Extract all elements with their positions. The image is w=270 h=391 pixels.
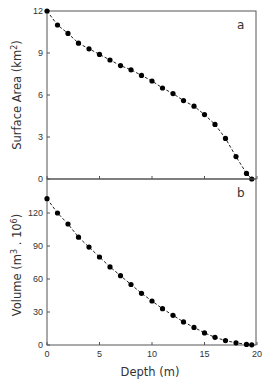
volume-panel: 0306090120 05101520 b Volume (m3 . 106) xyxy=(10,179,263,359)
x-axis-title: Depth (m) xyxy=(121,365,180,379)
data-point xyxy=(139,73,144,78)
y-tick-label: 30 xyxy=(33,307,43,317)
data-point xyxy=(244,171,249,176)
panel-a-label: a xyxy=(237,18,244,32)
data-point xyxy=(97,254,102,259)
data-point xyxy=(65,31,70,36)
data-point xyxy=(202,112,207,117)
y-tick-label: 60 xyxy=(33,274,43,284)
data-point xyxy=(181,319,186,324)
data-point xyxy=(149,298,154,303)
x-tick-label: 15 xyxy=(199,349,209,359)
data-point xyxy=(223,338,228,343)
data-point xyxy=(170,91,175,96)
data-point xyxy=(128,67,133,72)
panel-b-frame xyxy=(47,179,256,345)
y-tick-label: 0 xyxy=(38,340,43,350)
data-point xyxy=(202,330,207,335)
y-tick-label: 9 xyxy=(38,48,43,58)
data-point xyxy=(212,122,217,127)
data-point xyxy=(160,85,165,90)
x-tick-label: 10 xyxy=(147,349,157,359)
data-point xyxy=(44,8,49,13)
data-point xyxy=(191,104,196,109)
data-point xyxy=(118,63,123,68)
surface-area-panel: 036912 a Surface Area (km2) xyxy=(10,6,258,184)
data-point xyxy=(181,98,186,103)
data-point xyxy=(107,264,112,269)
data-point xyxy=(212,335,217,340)
data-point xyxy=(76,41,81,46)
x-tick-label: 5 xyxy=(97,349,102,359)
panel-a-line xyxy=(47,11,252,179)
data-point xyxy=(128,282,133,287)
y-tick-label: 90 xyxy=(33,241,43,251)
y-tick-label: 6 xyxy=(38,90,43,100)
y-tick-label: 3 xyxy=(38,132,43,142)
depth-charts: 036912 a Surface Area (km2) 0306090120 0… xyxy=(0,0,270,391)
y-tick-label: 12 xyxy=(33,6,43,16)
panel-a-frame xyxy=(47,11,256,179)
panel-b-points xyxy=(44,196,254,347)
data-point xyxy=(65,221,70,226)
data-point xyxy=(191,325,196,330)
data-point xyxy=(139,291,144,296)
data-point xyxy=(118,273,123,278)
panel-b-label: b xyxy=(237,186,245,200)
data-point xyxy=(170,313,175,318)
data-point xyxy=(55,210,60,215)
panel-b-line xyxy=(47,199,252,345)
panel-a-points xyxy=(44,8,254,181)
y-tick-label: 120 xyxy=(28,208,43,218)
data-point xyxy=(107,57,112,62)
data-point xyxy=(86,46,91,51)
panel-b-y-axis-title: Volume (m3 . 106) xyxy=(10,214,25,316)
y-tick-label: 0 xyxy=(38,174,43,184)
panel-a-y-axis-title: Surface Area (km2) xyxy=(10,40,25,150)
data-point xyxy=(86,245,91,250)
data-point xyxy=(160,306,165,311)
data-point xyxy=(249,342,254,347)
data-point xyxy=(55,22,60,27)
data-point xyxy=(76,235,81,240)
data-point xyxy=(223,136,228,141)
data-point xyxy=(233,154,238,159)
x-tick-label: 0 xyxy=(44,349,49,359)
x-tick-label: 20 xyxy=(252,349,262,359)
data-point xyxy=(244,342,249,347)
data-point xyxy=(44,196,49,201)
data-point xyxy=(233,340,238,345)
data-point xyxy=(97,52,102,57)
data-point xyxy=(149,78,154,83)
